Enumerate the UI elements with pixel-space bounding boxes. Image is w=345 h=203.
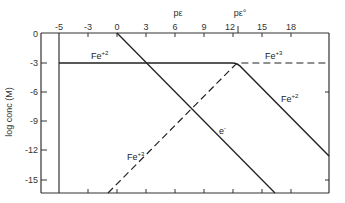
svg-text:-12: -12 bbox=[25, 145, 38, 155]
series-electron bbox=[117, 33, 275, 193]
svg-text:18: 18 bbox=[286, 22, 296, 32]
svg-text:-6: -6 bbox=[30, 87, 38, 97]
svg-text:0: 0 bbox=[33, 29, 38, 39]
svg-text:9: 9 bbox=[201, 22, 206, 32]
svg-text:0: 0 bbox=[114, 22, 119, 32]
pe-log-conc-chart: -5 -3 0 3 6 9 12 15 18 pε pε° 0 -3 -6 -9… bbox=[0, 0, 345, 203]
pe-zero-label: pε° bbox=[234, 8, 247, 18]
fe2-right-label: Fe+2 bbox=[281, 93, 299, 104]
svg-text:15: 15 bbox=[257, 22, 267, 32]
svg-text:3: 3 bbox=[143, 22, 148, 32]
svg-text:-3: -3 bbox=[84, 22, 92, 32]
y-axis-title: log conc (M) bbox=[4, 87, 14, 137]
y-ticks bbox=[41, 63, 329, 180]
svg-text:-3: -3 bbox=[30, 58, 38, 68]
x-tick-labels: -5 -3 0 3 6 9 12 15 18 bbox=[55, 22, 296, 32]
svg-text:12: 12 bbox=[225, 22, 235, 32]
x-axis-title: pε bbox=[173, 8, 182, 18]
fe3-right-label: Fe+3 bbox=[265, 50, 283, 61]
fe2-left-label: Fe+2 bbox=[91, 50, 109, 61]
y-tick-labels: 0 -3 -6 -9 -12 -15 bbox=[25, 29, 38, 185]
svg-text:-5: -5 bbox=[55, 22, 63, 32]
svg-text:6: 6 bbox=[172, 22, 177, 32]
svg-text:-9: -9 bbox=[30, 116, 38, 126]
svg-text:-15: -15 bbox=[25, 175, 38, 185]
fe3-left-label: Fe+3 bbox=[127, 151, 145, 162]
electron-label: e- bbox=[219, 125, 226, 136]
series-fe2 bbox=[59, 63, 329, 156]
